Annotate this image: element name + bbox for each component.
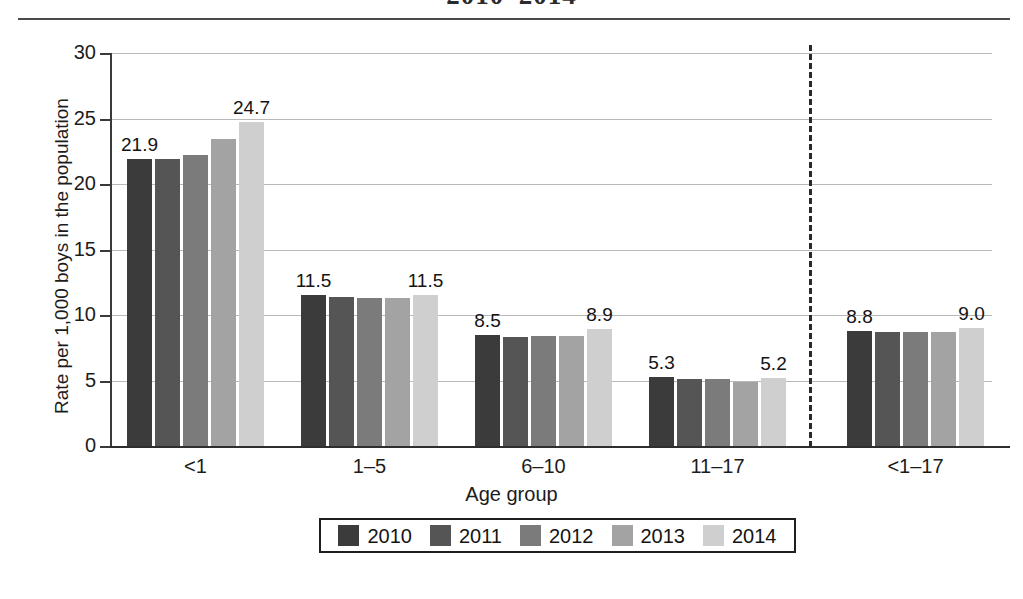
legend-color-swatch [430, 525, 451, 546]
y-tick-mark [100, 381, 110, 383]
y-tick-label: 25 [44, 107, 96, 130]
bar [559, 336, 584, 446]
y-tick-label: 5 [44, 369, 96, 392]
legend-item: 2014 [703, 525, 777, 546]
bar [903, 332, 928, 446]
bar [733, 382, 758, 446]
bar-value-label: 5.3 [632, 352, 692, 374]
bar-chart-figure: Rate per 1,000 boys in the population 05… [0, 0, 1023, 599]
y-tick-label: 10 [44, 303, 96, 326]
chart-legend: 20102011201220132014 [319, 518, 796, 553]
legend-color-swatch [612, 525, 633, 546]
x-axis-line [110, 446, 1010, 448]
bar [211, 139, 236, 446]
x-tick-label: 6–10 [484, 455, 604, 478]
x-tick-label: 11–17 [658, 455, 778, 478]
bar-value-label: 8.5 [458, 310, 518, 332]
bar [677, 379, 702, 446]
x-tick-label: 1–5 [310, 455, 430, 478]
legend-item: 2012 [520, 525, 594, 546]
y-axis-line [110, 53, 112, 447]
x-axis-title: Age group [0, 483, 1023, 506]
bar [357, 298, 382, 446]
y-tick-mark [100, 53, 110, 55]
y-tick-mark [100, 184, 110, 186]
bar-value-label: 8.9 [570, 304, 630, 326]
legend-color-swatch [520, 525, 541, 546]
bar [301, 295, 326, 446]
legend-label: 2014 [732, 526, 777, 546]
legend-label: 2010 [367, 526, 412, 546]
bar [649, 377, 674, 446]
bar [847, 331, 872, 446]
bar [761, 378, 786, 446]
x-tick-label: <1–17 [856, 455, 976, 478]
y-tick-label: 20 [44, 172, 96, 195]
y-tick-label: 15 [44, 238, 96, 261]
y-tick-label: 30 [44, 41, 96, 64]
bar [329, 297, 354, 446]
bar [531, 336, 556, 446]
plot-area: 21.924.711.511.58.58.95.35.28.89.0 [110, 53, 992, 446]
bar [155, 159, 180, 446]
bar [705, 379, 730, 446]
y-tick-label: 0 [44, 434, 96, 457]
legend-label: 2013 [641, 526, 686, 546]
legend-label: 2011 [459, 526, 502, 546]
legend-item: 2010 [338, 525, 412, 546]
legend-color-swatch [703, 525, 724, 546]
bar [239, 122, 264, 446]
bar-value-label: 8.8 [830, 306, 890, 328]
legend-color-swatch [338, 525, 359, 546]
y-tick-mark [100, 250, 110, 252]
bar [959, 328, 984, 446]
y-tick-mark [100, 315, 110, 317]
bar-value-label: 21.9 [110, 134, 170, 156]
legend-item: 2013 [612, 525, 686, 546]
bar [385, 298, 410, 446]
bar-value-label: 11.5 [396, 270, 456, 292]
x-tick-label: <1 [136, 455, 256, 478]
legend-label: 2012 [549, 526, 594, 546]
bar-value-label: 24.7 [222, 97, 282, 119]
bar-value-label: 9.0 [942, 303, 1002, 325]
bar [875, 332, 900, 446]
bar-value-label: 5.2 [744, 353, 804, 375]
bar [183, 155, 208, 446]
gridline [110, 53, 992, 54]
bar [503, 337, 528, 446]
bar-value-label: 11.5 [284, 270, 344, 292]
bar [587, 329, 612, 446]
bar [475, 335, 500, 446]
bar [931, 332, 956, 446]
y-tick-mark [100, 446, 110, 448]
bar [413, 295, 438, 446]
y-tick-mark [100, 119, 110, 121]
dashed-separator-line [809, 45, 812, 447]
bar [127, 159, 152, 446]
legend-item: 2011 [430, 525, 502, 546]
